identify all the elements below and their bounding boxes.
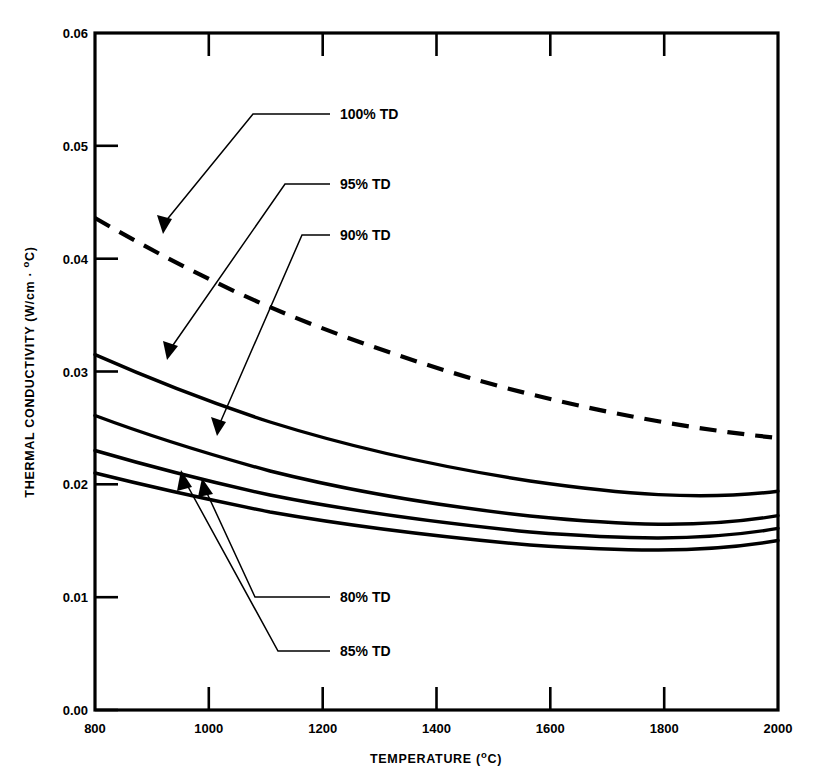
y-tick-label-0.05: 0.05 (63, 139, 88, 154)
series-label-85pct-td: 85% TD (340, 643, 391, 659)
y-tick-label-0.06: 0.06 (63, 26, 88, 41)
x-tick-label-1600: 1600 (536, 721, 565, 736)
series-label-95pct-td: 95% TD (340, 176, 391, 192)
y-tick-label-0.03: 0.03 (63, 365, 88, 380)
y-tick-label-0.00: 0.00 (63, 703, 88, 718)
series-label-100pct-td: 100% TD (340, 106, 398, 122)
y-tick-label-0.04: 0.04 (63, 252, 89, 267)
x-tick-label-1000: 1000 (194, 721, 223, 736)
x-tick-label-1800: 1800 (650, 721, 679, 736)
series-label-80pct-td: 80% TD (340, 589, 391, 605)
x-tick-label-1400: 1400 (422, 721, 451, 736)
x-tick-label-800: 800 (84, 721, 106, 736)
x-tick-label-2000: 2000 (764, 721, 793, 736)
series-label-90pct-td: 90% TD (340, 227, 391, 243)
chart-background (0, 0, 816, 777)
y-tick-label-0.01: 0.01 (63, 590, 88, 605)
y-tick-label-0.02: 0.02 (63, 477, 88, 492)
thermal-conductivity-chart: 0.06 0.05 0.04 0.03 0.02 0.01 0.00 800 1… (0, 0, 816, 777)
chart-svg: 0.06 0.05 0.04 0.03 0.02 0.01 0.00 800 1… (0, 0, 816, 777)
y-axis-title: THERMAL CONDUCTIVITY (W/cm · oC) (20, 246, 37, 497)
x-tick-label-1200: 1200 (308, 721, 337, 736)
